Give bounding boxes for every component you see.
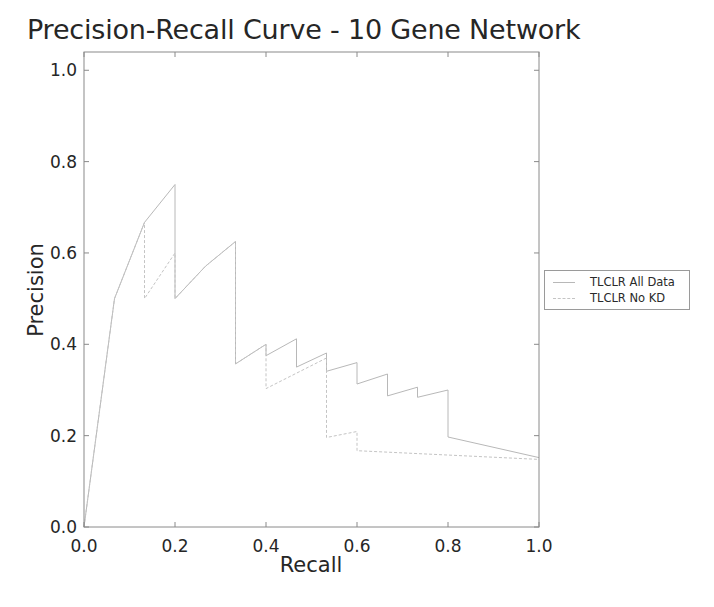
x-tick-label: 1.0	[525, 536, 552, 556]
legend-item-all-data: TLCLR All Data	[549, 274, 685, 290]
x-tick-label: 0.8	[434, 536, 461, 556]
series-layer	[84, 185, 539, 528]
x-tick-label: 0.0	[70, 536, 97, 556]
chart: Precision-Recall Curve - 10 Gene Network…	[0, 0, 714, 607]
x-axis-label-text: Recall	[280, 553, 343, 577]
legend-dashed-line-icon	[553, 298, 575, 299]
x-tick-label: 0.2	[161, 536, 188, 556]
y-axis-label-text: Precision	[24, 243, 48, 337]
legend-label: TLCLR No KD	[590, 291, 665, 305]
y-tick-label: 0.6	[50, 243, 77, 263]
legend: TLCLR All Data TLCLR No KD	[544, 270, 690, 310]
y-tick-label: 0.8	[50, 152, 77, 172]
y-tick-label: 0.4	[50, 334, 77, 354]
legend-item-no-kd: TLCLR No KD	[549, 290, 685, 306]
y-tick-label: 1.0	[50, 60, 77, 80]
legend-label: TLCLR All Data	[590, 275, 675, 289]
y-tick-label: 0.0	[50, 517, 77, 537]
axis-ticks: 0.00.20.40.60.81.00.00.20.40.60.81.0	[50, 52, 553, 556]
series-line-2	[84, 222, 539, 527]
x-tick-label: 0.6	[343, 536, 370, 556]
x-tick-label: 0.4	[252, 536, 279, 556]
legend-line-icon	[553, 282, 575, 283]
y-tick-label: 0.2	[50, 426, 77, 446]
series-line-1	[84, 185, 539, 528]
